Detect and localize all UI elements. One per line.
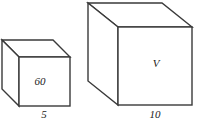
small-cube (2, 40, 70, 106)
large-cube-edge-label: 10 (142, 109, 168, 120)
small-cube-edge-label: 5 (31, 109, 57, 120)
small-cube-volume-label: 60 (27, 76, 53, 87)
large-cube-volume-label: V (143, 58, 169, 69)
large-cube (88, 3, 192, 105)
cubes-drawing (0, 0, 205, 124)
geometry-figure: 60 5 V 10 (0, 0, 205, 124)
